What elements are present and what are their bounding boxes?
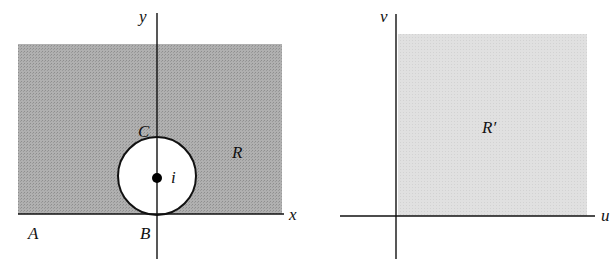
v-axis-label: v [380, 7, 388, 26]
point-c-label: C [138, 122, 150, 141]
point-i-label: i [171, 168, 176, 187]
point-b-label: B [140, 224, 151, 243]
point-a-label: A [27, 224, 39, 243]
x-axis-label: x [288, 205, 297, 224]
y-axis-label: y [137, 7, 147, 26]
left-panel: y x R C i A B [18, 7, 297, 259]
right-panel: v u R′ [340, 7, 610, 259]
region-r-prime-label: R′ [481, 118, 496, 137]
point-i-dot [152, 173, 162, 183]
region-r-label: R [231, 143, 243, 162]
conformal-map-figure: y x R C i A B v u R′ [0, 0, 611, 259]
u-axis-label: u [601, 206, 610, 225]
